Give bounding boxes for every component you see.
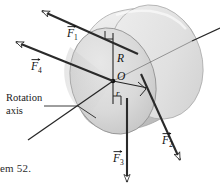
force-label-F2-base: F [162,134,169,146]
force-label-F3-sub: 3 [120,158,124,167]
figure-caption: em 52. [0,162,31,174]
rotation-axis-label-line2: axis [6,105,42,118]
rotation-axis-label-line1: Rotation [6,92,42,105]
center-label-O: O [117,70,125,82]
vector-arrow-icon [162,130,172,136]
force-label-F2-sub: 2 [169,140,173,149]
figure-container: Rotation axis R O r F1 F4 [0,0,220,184]
rotation-axis-label: Rotation axis [6,92,42,117]
force-label-F4-base: F [31,60,38,72]
force-label-F1-base: F [67,27,74,39]
force-label-F3: F3 [113,152,124,167]
force-label-F2: F2 [162,134,173,149]
vector-arrow-icon [31,56,41,62]
force-label-F1-sub: 1 [74,33,78,42]
force-label-F4-sub: 4 [38,66,42,75]
force-label-F4: F4 [31,60,42,75]
radius-label-R: R [117,52,124,64]
force-label-F1: F1 [67,27,78,42]
vector-arrow-icon [113,148,123,154]
force-label-F3-base: F [113,152,120,164]
vector-arrow-icon [67,23,77,29]
radius-label-r: r [116,88,120,98]
